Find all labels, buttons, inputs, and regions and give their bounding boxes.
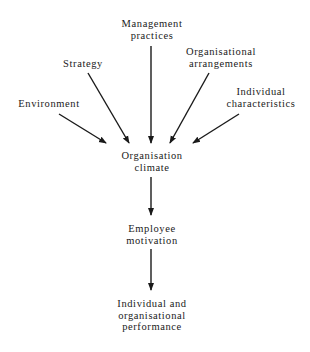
arrow-environment-to-climate xyxy=(59,114,106,143)
label-line: Organisational xyxy=(186,46,256,58)
node-individual-characteristics: Individual characteristics xyxy=(226,86,295,109)
node-management-practices: Management practices xyxy=(122,18,183,41)
arrow-arrangements-to-climate xyxy=(170,73,209,143)
node-environment: Environment xyxy=(18,98,79,110)
label-line: Individual and xyxy=(117,298,186,310)
label-line: Organisation xyxy=(121,150,182,162)
label-line: climate xyxy=(121,162,182,174)
label-line: Management xyxy=(122,18,183,30)
label-line: motivation xyxy=(126,235,178,247)
label-line: practices xyxy=(122,30,183,42)
arrow-characteristics-to-climate xyxy=(193,114,239,143)
node-organisational-arrangements: Organisational arrangements xyxy=(186,46,256,69)
label-line: organisational xyxy=(117,310,186,322)
node-performance: Individual and organisational performanc… xyxy=(117,298,186,333)
label-line: Strategy xyxy=(63,58,103,70)
label-line: arrangements xyxy=(186,58,256,70)
label-line: Employee xyxy=(126,223,178,235)
node-strategy: Strategy xyxy=(63,58,103,70)
label-line: characteristics xyxy=(226,98,295,110)
arrow-strategy-to-climate xyxy=(88,73,129,143)
label-line: Environment xyxy=(18,98,79,110)
node-organisation-climate: Organisation climate xyxy=(121,150,182,173)
label-line: performance xyxy=(117,321,186,333)
label-line: Individual xyxy=(226,86,295,98)
node-employee-motivation: Employee motivation xyxy=(126,223,178,246)
